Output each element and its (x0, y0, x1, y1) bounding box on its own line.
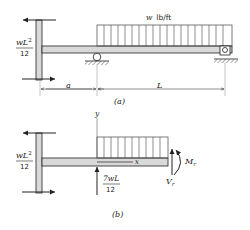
distributed-load-b (97, 137, 168, 158)
y-axis-label: y (94, 109, 100, 118)
moment-label: Mr (184, 157, 196, 167)
figure-b: y wL2 12 x 7wL 12 (16, 109, 196, 219)
moment-denominator-b: 12 (20, 163, 29, 171)
distributed-load-a (97, 25, 232, 46)
column-a (36, 20, 42, 80)
load-label: w lb/ft (146, 13, 171, 22)
moment-arrow (174, 150, 181, 175)
shear-label: Vr (166, 177, 175, 187)
caption-b: (b) (112, 210, 123, 219)
dimension-lines (40, 63, 225, 96)
reaction-denominator: 12 (106, 186, 115, 194)
beam-a (42, 46, 232, 53)
roller-support (85, 53, 109, 65)
dimension-a-label: a (66, 81, 71, 90)
figure-a: wL2 12 w (16, 13, 238, 106)
column-b (36, 133, 42, 193)
moment-label-b: wL2 (16, 150, 32, 160)
reaction-numerator: 7wL (103, 174, 119, 183)
caption-a: (a) (114, 97, 125, 106)
moment-label-a: wL2 (16, 37, 32, 47)
beam-diagram: wL2 12 w (0, 0, 250, 230)
x-axis-label: x (135, 158, 139, 166)
moment-denominator-a: 12 (20, 50, 29, 58)
dimension-L-label: L (156, 81, 162, 90)
